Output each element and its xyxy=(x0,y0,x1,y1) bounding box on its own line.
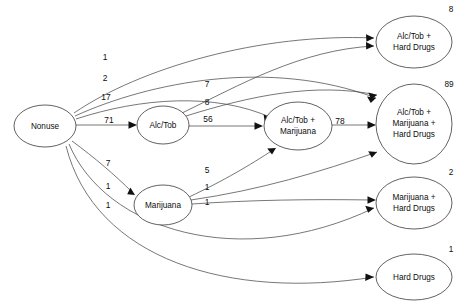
node-nonuse-label: Nonuse xyxy=(31,122,60,131)
node-alctob-label: Alc/Tob xyxy=(150,121,177,130)
edge-nonuse-to-hard-drugs xyxy=(66,146,374,283)
node-alctob-marijuana-hard-drugs-label-line1: Alc/Tob + xyxy=(397,108,431,117)
node-alctob-hard-drugs-label-line2: Hard Drugs xyxy=(393,43,435,52)
node-marijuana-hard-drugs-label-line1: Marijuana + xyxy=(392,193,435,202)
node-hard-drugs-label: Hard Drugs xyxy=(393,273,435,282)
diagram-canvas: Nonuse Alc/Tob Alc/Tob + Marijuana Marij… xyxy=(0,0,466,305)
node-alctob[interactable]: Alc/Tob xyxy=(137,106,189,144)
node-hard-drugs[interactable]: Hard Drugs 1 xyxy=(376,245,454,300)
node-marijuana[interactable]: Marijuana xyxy=(134,185,192,225)
node-alctob-marijuana-hard-drugs-label-line2: Marijuana + xyxy=(392,119,435,128)
node-alctob-hard-drugs-count: 8 xyxy=(449,5,454,14)
edge-label-nonuse-alctob-marijuana-hard-drugs: 2 xyxy=(103,73,108,83)
node-marijuana-label: Marijuana xyxy=(145,201,181,210)
edge-group xyxy=(66,34,377,283)
edge-label-marijuana-marijuana-hard-drugs: 1 xyxy=(205,197,210,207)
edge-label-nonuse-marijuana-hard-drugs: 1 xyxy=(106,181,111,191)
node-alctob-marijuana-hard-drugs-label-line3: Hard Drugs xyxy=(393,130,435,139)
edge-marijuana-to-alctob-marijuana xyxy=(189,148,276,197)
edge-label-nonuse-marijuana: 7 xyxy=(106,158,111,168)
node-group: Nonuse Alc/Tob Alc/Tob + Marijuana Marij… xyxy=(14,5,454,300)
node-marijuana-hard-drugs[interactable]: Marijuana + Hard Drugs 2 xyxy=(376,168,454,229)
node-hard-drugs-count: 1 xyxy=(449,245,454,254)
edge-nonuse-to-alctob-hard-drugs xyxy=(74,34,374,113)
edge-nonuse-to-marijuana-hard-drugs xyxy=(69,144,374,239)
edge-label-alctob-marijuana-to-alctob-marijuana-hard-drugs: 78 xyxy=(335,116,345,126)
node-nonuse[interactable]: Nonuse xyxy=(14,105,76,147)
edge-marijuana-to-alctob-marijuana-hard-drugs xyxy=(191,151,377,200)
node-marijuana-hard-drugs-label-line2: Hard Drugs xyxy=(393,204,435,213)
node-alctob-hard-drugs[interactable]: Alc/Tob + Hard Drugs 8 xyxy=(376,5,454,68)
edge-label-nonuse-alctob: 71 xyxy=(104,115,114,125)
edge-label-nonuse-alctob-marijuana: 17 xyxy=(101,92,111,102)
node-alctob-hard-drugs-label-line1: Alc/Tob + xyxy=(397,32,431,41)
node-alctob-marijuana-label-line2: Marijuana xyxy=(280,127,316,136)
edge-label-alctob-alctob-hard-drugs: 7 xyxy=(205,79,210,89)
node-alctob-marijuana-hard-drugs[interactable]: Alc/Tob + Marijuana + Hard Drugs 89 xyxy=(376,80,454,164)
node-alctob-marijuana-label-line1: Alc/Tob + xyxy=(281,116,315,125)
edge-label-alctob-alctob-marijuana: 56 xyxy=(203,114,213,124)
edge-label-nonuse-hard-drugs: 1 xyxy=(106,200,111,210)
edge-label-alctob-alctob-marijuana-hard-drugs: 8 xyxy=(205,97,210,107)
diagram-svg: Nonuse Alc/Tob Alc/Tob + Marijuana Marij… xyxy=(0,0,466,305)
edge-nonuse-to-alctob-marijuana-hard-drugs xyxy=(75,77,376,116)
node-alctob-marijuana[interactable]: Alc/Tob + Marijuana xyxy=(264,102,332,150)
edge-label-marijuana-alctob-marijuana-hard-drugs: 1 xyxy=(205,182,210,192)
node-alctob-marijuana-hard-drugs-count: 89 xyxy=(444,80,454,89)
edge-label-nonuse-alctob-hard-drugs: 1 xyxy=(103,52,108,62)
edge-label-marijuana-alctob-marijuana: 5 xyxy=(205,165,210,175)
edge-alctob-to-alctob-marijuana xyxy=(189,122,263,130)
node-marijuana-hard-drugs-count: 2 xyxy=(449,168,454,177)
edge-marijuana-to-marijuana-hard-drugs xyxy=(192,196,376,204)
edge-nonuse-to-marijuana xyxy=(72,141,135,195)
